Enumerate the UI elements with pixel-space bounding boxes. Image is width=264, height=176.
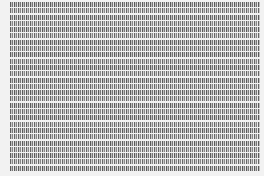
text-line <box>10 109 260 114</box>
text-line <box>10 147 260 152</box>
text-line <box>10 52 260 57</box>
text-line <box>10 71 260 76</box>
text-line <box>10 8 260 13</box>
text-line <box>10 166 260 171</box>
text-line <box>10 65 260 70</box>
text-line <box>10 40 260 45</box>
text-line <box>10 96 260 101</box>
text-line <box>10 141 260 146</box>
text-line <box>10 153 260 158</box>
text-line <box>10 21 260 26</box>
text-line <box>10 33 260 38</box>
text-line <box>10 84 260 89</box>
text-line <box>10 128 260 133</box>
text-line <box>10 46 260 51</box>
text-line <box>10 115 260 120</box>
text-line <box>10 59 260 64</box>
text-line <box>10 78 260 83</box>
text-line <box>10 27 260 32</box>
text-line <box>10 2 260 7</box>
text-line <box>10 90 260 95</box>
text-line <box>10 159 260 164</box>
character-grid <box>10 2 260 174</box>
text-line <box>10 103 260 108</box>
text-line <box>10 15 260 20</box>
text-line <box>10 122 260 127</box>
document-page: text too small to be legible <box>0 0 264 176</box>
text-line <box>10 134 260 139</box>
